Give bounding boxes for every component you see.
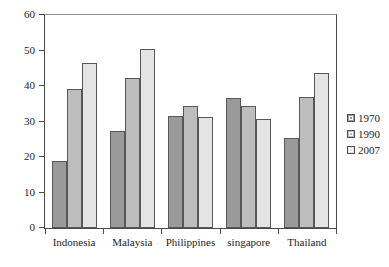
bar-group: [220, 15, 278, 228]
y-tick-mark: [39, 227, 44, 228]
legend-label: 2007: [358, 145, 380, 156]
y-tick-mark: [39, 156, 44, 157]
y-tick-label: 0: [30, 222, 36, 233]
x-axis-labels: IndonesiaMalaysiaPhilippinessingaporeTha…: [45, 236, 336, 254]
bar: [125, 78, 140, 228]
y-tick-mark: [39, 50, 44, 51]
bars-layer: [45, 15, 336, 228]
bar: [183, 106, 198, 228]
bar: [284, 138, 299, 228]
bar: [82, 63, 97, 228]
x-tick-mark: [103, 229, 104, 234]
y-tick-label: 10: [24, 187, 35, 198]
bar: [168, 116, 183, 228]
x-tick-mark: [220, 229, 221, 234]
bar: [67, 89, 82, 228]
y-tick-label: 30: [24, 116, 35, 127]
y-axis: 0102030405060: [0, 0, 44, 267]
y-tick-mark: [39, 121, 44, 122]
bar: [226, 98, 241, 228]
bar: [110, 131, 125, 228]
legend-item: 2007: [347, 142, 389, 158]
y-tick-label: 50: [24, 45, 35, 56]
bar: [198, 117, 213, 228]
x-tick-label: singapore: [227, 236, 270, 249]
legend-swatch-icon: [347, 114, 355, 122]
legend-item: 1990: [347, 126, 389, 142]
bar: [140, 49, 155, 228]
bar-chart: 0102030405060 IndonesiaMalaysiaPhilippin…: [0, 0, 389, 267]
x-tick-label: Thailand: [287, 236, 326, 249]
y-tick-label: 40: [24, 80, 35, 91]
legend-label: 1990: [358, 129, 380, 140]
legend-swatch-icon: [347, 146, 355, 154]
y-tick-label: 20: [24, 151, 35, 162]
legend-item: 1970: [347, 110, 389, 126]
bar-group: [103, 15, 161, 228]
legend-swatch-icon: [347, 130, 355, 138]
bar: [256, 119, 271, 228]
x-tick-label: Malaysia: [112, 236, 152, 249]
legend-label: 1970: [358, 113, 380, 124]
bar-group: [45, 15, 103, 228]
x-tick-mark: [161, 229, 162, 234]
x-tick-mark: [336, 229, 337, 234]
bar: [52, 161, 67, 228]
bar: [299, 97, 314, 228]
x-tick-mark: [45, 229, 46, 234]
bar-group: [161, 15, 219, 228]
bar: [314, 73, 329, 228]
legend: 197019902007: [347, 110, 389, 158]
y-tick-label: 60: [24, 9, 35, 20]
x-tick-label: Philippines: [166, 236, 216, 249]
bar-group: [278, 15, 336, 228]
y-tick-mark: [39, 14, 44, 15]
x-tick-label: Indonesia: [53, 236, 96, 249]
y-tick-mark: [39, 85, 44, 86]
bar: [241, 106, 256, 228]
y-tick-mark: [39, 192, 44, 193]
x-tick-mark: [278, 229, 279, 234]
x-axis-ticks: [45, 229, 336, 235]
